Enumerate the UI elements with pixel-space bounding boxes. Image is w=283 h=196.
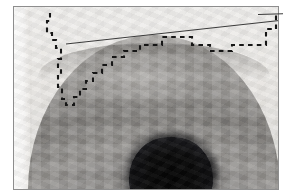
solid-reference-line [66, 20, 278, 44]
grayscale-image-panel[interactable] [13, 6, 279, 190]
annotation-overlay [14, 7, 278, 189]
image-plane [14, 7, 278, 189]
figure-container [0, 0, 283, 196]
dashed-contour-overlay [47, 13, 276, 105]
